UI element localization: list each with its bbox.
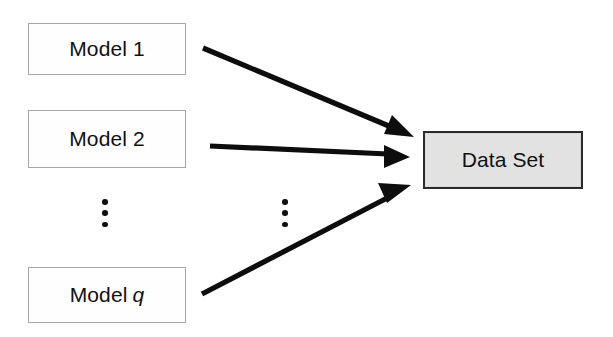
node-model-q[interactable]: Modelq bbox=[28, 267, 186, 323]
ellipsis-dot bbox=[282, 210, 288, 216]
node-model-q-label-variable: q bbox=[127, 283, 144, 306]
ellipsis-dot bbox=[102, 222, 108, 228]
arrow-model-2-to-data-set bbox=[210, 145, 410, 168]
diagram-canvas: Model 1 Model 2 Modelq Data Set bbox=[0, 0, 613, 337]
ellipsis-vertical-right bbox=[282, 199, 288, 227]
arrow-model-q-to-data-set bbox=[202, 183, 411, 294]
ellipsis-dot bbox=[282, 222, 288, 228]
node-data-set-label: Data Set bbox=[462, 148, 545, 172]
node-model-q-label-prefix: Model bbox=[70, 283, 128, 306]
ellipsis-dot bbox=[282, 199, 288, 205]
node-data-set[interactable]: Data Set bbox=[423, 131, 583, 189]
node-model-2[interactable]: Model 2 bbox=[28, 110, 186, 168]
node-model-2-label: Model 2 bbox=[69, 127, 144, 151]
ellipsis-dot bbox=[102, 199, 108, 205]
arrow-model-1-to-data-set bbox=[203, 48, 414, 137]
node-model-q-label: Modelq bbox=[70, 283, 144, 307]
ellipsis-vertical-left bbox=[102, 199, 108, 227]
ellipsis-dot bbox=[102, 210, 108, 216]
node-model-1[interactable]: Model 1 bbox=[28, 23, 186, 75]
node-model-1-label: Model 1 bbox=[69, 37, 144, 61]
